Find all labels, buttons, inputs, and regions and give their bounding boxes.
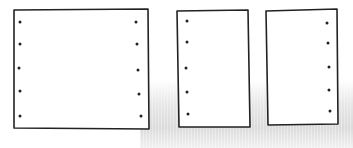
punch-hole-dot	[186, 41, 189, 44]
punch-hole-dot	[328, 66, 331, 69]
narrow-sheet-right-holes	[266, 9, 338, 125]
punch-hole-dot	[329, 110, 332, 113]
punch-hole-dot	[19, 21, 22, 24]
sheet-outline	[14, 9, 149, 129]
punch-hole-dot	[19, 43, 22, 46]
punch-hole-dot	[327, 42, 330, 45]
sheet-outline	[266, 9, 338, 125]
punch-hole-dot	[136, 43, 139, 46]
punch-hole-dot	[138, 93, 141, 96]
punch-hole-dot	[137, 69, 140, 72]
punch-hole-dot	[18, 67, 21, 70]
punch-hole-dot	[185, 67, 188, 70]
narrow-sheet-left-holes	[177, 10, 250, 127]
punch-hole-dot	[135, 21, 138, 24]
punch-hole-dot	[186, 91, 189, 94]
punch-hole-dot	[328, 89, 331, 92]
punch-hole-dot	[187, 113, 190, 116]
wide-sheet	[14, 9, 149, 129]
sheet-outline	[177, 10, 250, 127]
punch-hole-dot	[326, 22, 329, 25]
punch-hole-dot	[19, 115, 22, 118]
punch-hole-dot	[19, 90, 22, 93]
punch-hole-dot	[140, 115, 143, 118]
punch-hole-dot	[186, 20, 189, 23]
sheets-diagram	[0, 0, 353, 148]
